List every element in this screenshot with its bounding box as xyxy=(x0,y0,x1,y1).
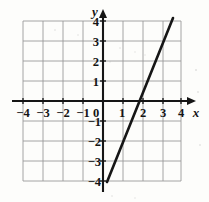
y-axis-arrow-icon xyxy=(99,9,107,18)
x-tick-label: 2 xyxy=(140,106,146,120)
y-tick-label: 2 xyxy=(93,55,99,69)
x-tick-label: −2 xyxy=(56,106,69,120)
y-tick-label: −4 xyxy=(88,175,102,189)
y-tick-label: −2 xyxy=(88,135,101,149)
y-tick-labels-positive: 4 3 2 1 xyxy=(93,15,100,89)
x-tick-labels-positive: 1 2 3 4 xyxy=(119,106,185,120)
x-tick-label: −4 xyxy=(16,106,30,120)
y-tick-labels-negative: −1 −2 −3 −4 xyxy=(88,115,102,189)
y-tick-label: −1 xyxy=(88,115,101,129)
x-tick-label: 3 xyxy=(160,106,166,120)
y-axis-label: y xyxy=(90,4,98,19)
x-tick-label: 1 xyxy=(119,106,125,120)
y-tick-label: 3 xyxy=(93,35,99,49)
graph-svg: −4 −3 −2 −1 0 1 2 3 4 4 3 2 1 −1 −2 −3 −… xyxy=(0,0,209,202)
x-axis-arrow-icon xyxy=(187,97,196,105)
x-tick-labels-negative: −4 −3 −2 −1 xyxy=(16,106,89,120)
x-axis-label: x xyxy=(192,105,200,120)
x-tick-label: 4 xyxy=(178,106,185,120)
y-tick-label: 1 xyxy=(93,75,99,89)
x-tick-label: −3 xyxy=(36,106,49,120)
y-tick-label: −3 xyxy=(88,155,101,169)
coordinate-plane-figure: −4 −3 −2 −1 0 1 2 3 4 4 3 2 1 −1 −2 −3 −… xyxy=(0,0,209,202)
